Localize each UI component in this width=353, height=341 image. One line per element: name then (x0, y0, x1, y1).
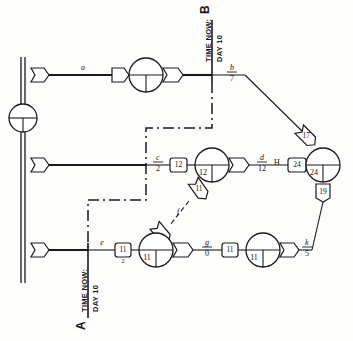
top-row-end-connector (163, 68, 183, 82)
top-marker-letter: B (198, 5, 212, 14)
middle-row-hash-mark: H (274, 158, 280, 167)
bottom-row-left-circle-value: 11 (143, 253, 151, 262)
middle-row-activity-label-id: d (260, 153, 265, 162)
diagonal-f-label: f (177, 207, 181, 216)
bottom-row-activity-label-num: 0 (205, 249, 209, 258)
bottom-row-end-connector (280, 243, 299, 257)
bottom-row-right-circle-value: 11 (250, 253, 258, 262)
middle-row-right-circle-value: 24 (310, 168, 318, 177)
top-row-end-label-num: 7 (230, 74, 234, 83)
bottom-row-mid-connector (173, 243, 193, 257)
top-time-now-line2: DAY 10 (215, 35, 224, 62)
top-row-mid-connector (112, 68, 129, 82)
diagonal-top-to-right-node (245, 75, 303, 132)
middle-row-box-after-value: 24 (293, 160, 301, 169)
middle-row-mid-connector (229, 158, 249, 172)
bottom-row-box-right-value: 11 (226, 245, 233, 254)
diagonal-connector-17-value: 17 (303, 131, 311, 140)
bottom-marker-letter: A (74, 321, 88, 330)
top-row: a (31, 58, 245, 92)
bottom-row-start-label: e (100, 238, 104, 247)
bottom-time-now-line2: DAY 10 (91, 285, 100, 312)
middle-row-circle-value: 12 (199, 168, 207, 177)
middle-row-start-connector (31, 158, 49, 172)
bottom-time-now-line1: TIME NOW: (80, 269, 89, 312)
bottom-row: e 11 2 11 g 0 11 11 k 5 (31, 233, 312, 267)
top-row-start-connector (31, 68, 49, 82)
bottom-row-box-left-sub: 2 (122, 258, 125, 264)
drop-connector-19-value: 19 (319, 187, 327, 196)
network-diagram-canvas: a B TIME NOW: DAY 10 b 7 17 (0, 0, 353, 341)
diagonal-right-node-to-bottom (312, 202, 323, 250)
top-time-now-marker: B TIME NOW: DAY 10 (198, 5, 224, 82)
bottom-time-now-marker: A TIME NOW: DAY 10 (74, 243, 100, 330)
diagonal-f-line (170, 201, 189, 225)
left-rail-node-circle (9, 104, 37, 132)
drop-connector-19: 19 (316, 184, 330, 202)
network-diagram-svg: a B TIME NOW: DAY 10 b 7 17 (0, 0, 353, 341)
bottom-row-box-left-value: 11 (119, 245, 126, 254)
top-time-now-line1: TIME NOW: (204, 19, 213, 62)
bottom-row-end-label-id: k (305, 238, 309, 247)
middle-row-box-before-value: 12 (175, 160, 183, 169)
top-row-activity-label: a (81, 63, 85, 72)
diagonal-connector-11-value: 11 (195, 184, 202, 193)
middle-row-start-label-id: c (156, 153, 160, 162)
middle-row-activity-label-num: 12 (258, 164, 266, 173)
bottom-row-start-connector (31, 243, 49, 257)
top-row-end-label: b 7 (227, 63, 237, 83)
middle-row: c 2 12 12 d 12 H 24 24 (31, 148, 340, 182)
left-rail (21, 57, 25, 283)
top-row-end-label-id: b (230, 63, 234, 72)
bottom-row-activity-label-id: g (205, 238, 209, 247)
time-now-stepped-path (88, 82, 212, 252)
bottom-row-end-label-num: 5 (305, 249, 309, 258)
